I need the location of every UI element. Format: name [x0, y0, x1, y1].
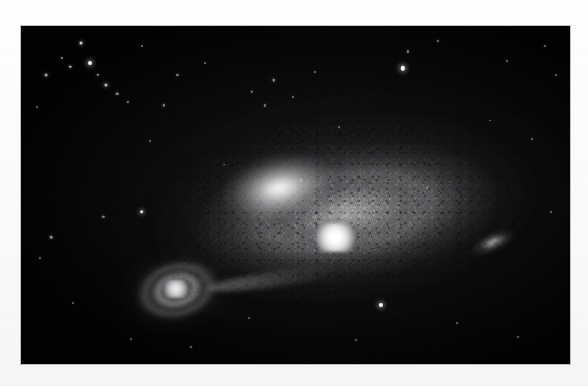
- star: [531, 138, 533, 140]
- star: [176, 74, 178, 76]
- star: [517, 336, 519, 338]
- star: [292, 96, 294, 98]
- star: [80, 41, 83, 44]
- star: [300, 179, 302, 181]
- star: [264, 104, 266, 106]
- star: [102, 216, 104, 218]
- galaxy-disk: [72, 42, 563, 354]
- star-field: [21, 26, 570, 364]
- star: [489, 120, 491, 122]
- star: [437, 40, 439, 42]
- galaxy-spiral-arm-ring: [84, 51, 552, 346]
- star: [544, 45, 546, 47]
- star: [379, 303, 383, 307]
- sky-background: [21, 26, 570, 364]
- galaxy-nucleus: [315, 223, 355, 251]
- star: [223, 164, 225, 166]
- star: [163, 104, 165, 106]
- companion-galaxy-halo: [104, 227, 250, 353]
- star: [204, 62, 206, 64]
- star: [407, 50, 409, 52]
- star: [250, 91, 252, 93]
- star: [116, 92, 119, 95]
- star: [36, 106, 38, 108]
- star: [555, 74, 557, 76]
- star: [72, 302, 74, 304]
- star: [400, 66, 404, 70]
- star: [39, 256, 41, 258]
- galaxy-bulge: [199, 127, 358, 249]
- star: [457, 323, 459, 325]
- star: [550, 211, 552, 213]
- galaxy-outer-halo: [49, 26, 570, 364]
- companion-galaxy-arms: [117, 238, 238, 342]
- star: [97, 74, 99, 76]
- star: [130, 338, 132, 340]
- star: [506, 60, 508, 62]
- star: [127, 101, 129, 103]
- star: [426, 187, 428, 189]
- star: [190, 346, 192, 348]
- star: [338, 126, 340, 128]
- star: [88, 61, 92, 65]
- plate-grain-fine: [21, 26, 570, 364]
- page-root: [0, 0, 588, 386]
- plate-grain-coarse: [21, 26, 570, 364]
- star: [69, 65, 72, 68]
- star: [105, 84, 108, 87]
- star: [149, 140, 151, 142]
- star: [61, 57, 63, 59]
- right-edge-knot: [466, 221, 521, 263]
- star: [140, 210, 144, 214]
- star: [272, 79, 275, 82]
- star: [314, 71, 316, 73]
- star: [44, 74, 47, 77]
- galaxy-photograph-plate: [21, 26, 570, 364]
- star: [50, 236, 53, 239]
- star: [355, 339, 357, 341]
- star: [248, 317, 250, 319]
- star: [141, 45, 143, 47]
- tidal-bridge: [207, 261, 350, 296]
- companion-galaxy-nucleus: [163, 280, 188, 298]
